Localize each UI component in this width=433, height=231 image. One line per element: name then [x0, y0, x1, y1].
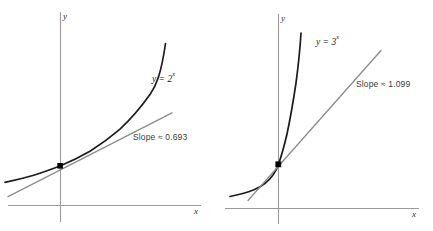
exponential-tangent-figure: y x y = 2x Slope ≈ 0.693 y x y = 3x Slop…	[0, 0, 433, 231]
left-curve-label-base: y = 2	[151, 74, 172, 84]
left-exponential-curve	[5, 44, 166, 183]
left-y-axis-label: y	[62, 11, 67, 21]
right-x-axis-label: x	[411, 209, 416, 219]
right-y-axis-label: y	[280, 13, 285, 23]
left-tangency-point	[57, 163, 63, 169]
right-tangent-line	[248, 51, 381, 201]
right-panel: y x y = 3x Slope ≈ 1.099	[225, 13, 419, 224]
left-curve-label: y = 2x	[151, 69, 175, 84]
right-curve-label: y = 3x	[315, 32, 339, 47]
left-x-axis-label: x	[193, 206, 198, 216]
right-tangency-point	[275, 161, 281, 167]
left-curve-label-exponent: x	[171, 69, 175, 76]
left-panel: y x y = 2x Slope ≈ 0.693	[5, 11, 201, 222]
right-slope-label: Slope ≈ 1.099	[356, 79, 410, 89]
left-tangent-line	[8, 113, 172, 197]
right-exponential-curve	[230, 33, 301, 197]
right-curve-label-base: y = 3	[315, 37, 336, 47]
left-slope-label: Slope ≈ 0.693	[133, 132, 187, 142]
right-curve-label-exponent: x	[335, 32, 339, 39]
